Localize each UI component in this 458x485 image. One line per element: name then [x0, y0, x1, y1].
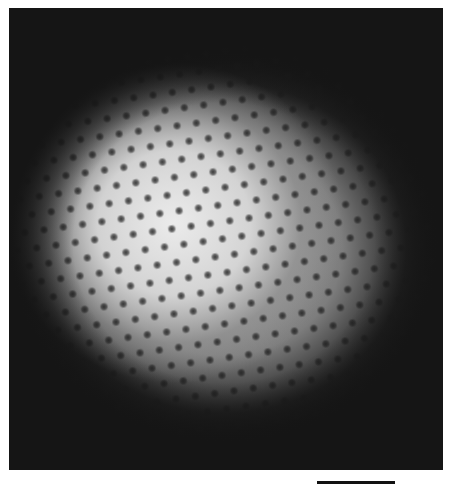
scale-bar: [317, 481, 395, 484]
vignette: [9, 8, 443, 470]
micrograph-image: [9, 8, 443, 470]
